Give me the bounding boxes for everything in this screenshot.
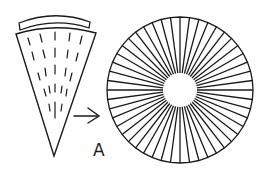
cone-dash-lines	[28, 32, 82, 118]
disc-spoke	[197, 81, 253, 88]
panel-label: A	[93, 142, 105, 159]
diagram-canvas	[0, 0, 264, 172]
radial-disc	[107, 17, 253, 163]
disc-spoke	[184, 106, 199, 160]
disc-spoke	[171, 107, 178, 162]
disc-spoke	[110, 71, 164, 86]
disc-spoke	[161, 106, 176, 160]
disc-spoke	[196, 94, 250, 109]
disc-spoke	[108, 92, 164, 99]
disc-spoke	[182, 107, 189, 162]
disc-spoke	[197, 92, 253, 99]
disc-spoke	[182, 18, 189, 74]
disc-spoke	[108, 81, 164, 88]
disc-spoke	[184, 20, 199, 74]
cone-outline	[16, 28, 96, 156]
arrow	[74, 108, 99, 123]
disc-spoke	[110, 94, 164, 109]
disc-spoke	[171, 18, 178, 74]
disc-spoke	[196, 71, 250, 86]
disc-spoke	[161, 20, 176, 74]
cone-wedge	[16, 16, 96, 156]
